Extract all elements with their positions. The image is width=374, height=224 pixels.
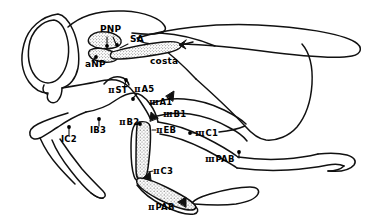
label-ii-a5: ⅡA5 <box>134 85 154 94</box>
label-ii-c3-numeral: Ⅱ <box>153 166 159 176</box>
label-iii-pab: ⅢPAB <box>205 155 235 164</box>
label-iii-c1-numeral: Ⅲ <box>195 128 204 138</box>
label-iii-c1-text: C1 <box>205 128 218 138</box>
label-iii-a1-numeral: Ⅲ <box>149 97 158 107</box>
label-iii-c1: ⅢC1 <box>195 129 218 138</box>
head-outline <box>22 14 79 103</box>
label-ii-b2: ⅡB2 <box>119 118 139 127</box>
label-ii-c3: ⅡC3 <box>153 167 173 176</box>
label-ii-b2-text: B2 <box>126 117 139 127</box>
fore-leg-coxa <box>30 112 86 139</box>
label-sa-text: SA <box>130 34 144 44</box>
label-ii-pab-text: PAB <box>155 202 174 212</box>
label-ii-pab: ⅡPAB <box>148 203 175 212</box>
label-ii-a5-text: A5 <box>141 84 154 94</box>
hind-leg-tarsus-upper <box>318 153 355 171</box>
anatomy-line-drawing <box>0 0 374 224</box>
label-iii-b1-text: B1 <box>173 109 186 119</box>
label-anp-text: aNP <box>85 59 106 69</box>
label-ii-b2-numeral: Ⅱ <box>119 117 125 127</box>
label-iii-a1-text: A1 <box>159 97 172 107</box>
label-ii-c3-text: C3 <box>160 166 173 176</box>
label-iii-a1: ⅢA1 <box>149 98 172 107</box>
fore-leg-tarsus-tip <box>91 193 103 198</box>
label-ii-st-text: ST <box>115 85 127 95</box>
hind-leg-tarsus-lower <box>237 164 344 170</box>
label-ii-eb: ⅡEB <box>156 126 176 135</box>
label-anp: aNP <box>84 60 106 69</box>
label-iii-b1: ⅢB1 <box>163 110 186 119</box>
label-pnp: PNP <box>99 25 121 34</box>
leader-sa <box>120 44 128 48</box>
label-i-b3: IB3 <box>90 126 106 135</box>
label-sa: SA <box>129 35 144 44</box>
label-ii-st-numeral: Ⅱ <box>108 85 114 95</box>
label-i-b3-text: IB3 <box>90 125 106 135</box>
label-i-c2: IC2 <box>61 135 77 144</box>
label-i-c2-text: IC2 <box>61 134 77 144</box>
label-iii-pab-numeral: Ⅲ <box>205 154 214 164</box>
hind-leg-tibia <box>238 154 318 159</box>
label-ii-eb-text: EB <box>163 125 176 135</box>
label-iii-b1-numeral: Ⅲ <box>163 109 172 119</box>
label-ii-st: ⅡST <box>108 86 128 95</box>
label-pnp-text: PNP <box>100 24 121 34</box>
label-ii-eb-numeral: Ⅱ <box>156 125 162 135</box>
mid-leg-tarsus <box>192 187 259 205</box>
label-ii-pab-numeral: Ⅱ <box>148 202 154 212</box>
label-costa: costa <box>149 57 178 66</box>
label-costa-text: costa <box>150 56 178 66</box>
anatomy-figure: PNP SA aNP costa ⅡST ⅡA5 ⅢA1 ⅢB1 ⅡB2 IB3… <box>0 0 374 224</box>
mid-leg-coxa-shaded <box>136 122 150 180</box>
abdomen-outline <box>196 44 312 140</box>
compound-eye-outline <box>28 20 68 83</box>
label-iii-pab-text: PAB <box>215 154 234 164</box>
label-ii-a5-numeral: Ⅱ <box>134 84 140 94</box>
fore-leg-femur <box>40 138 75 184</box>
